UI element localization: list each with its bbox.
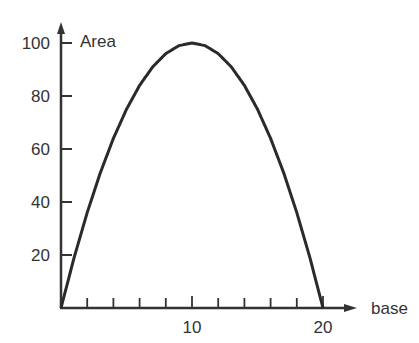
x-tick-label: 10 xyxy=(183,318,202,337)
x-tick-label: 20 xyxy=(314,318,333,337)
y-tick-label: 60 xyxy=(31,140,50,159)
y-tick-label: 40 xyxy=(31,193,50,212)
y-tick-label: 80 xyxy=(31,87,50,106)
y-tick-label: 20 xyxy=(31,246,50,265)
x-axis-label: base xyxy=(371,299,408,318)
y-tick-label: 100 xyxy=(22,34,50,53)
x-ticks: 1020 xyxy=(87,296,332,337)
x-axis-arrow-icon xyxy=(344,304,357,312)
y-ticks: 20406080100 xyxy=(22,34,72,265)
area-curve xyxy=(61,43,323,308)
y-axis-label: Area xyxy=(80,32,116,51)
area-vs-base-chart: 20406080100 1020 Area base xyxy=(0,0,419,343)
y-axis-arrow-icon xyxy=(57,22,65,34)
